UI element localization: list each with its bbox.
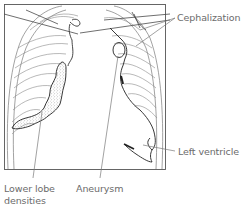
label-aneurysm: Aneurysm [76, 183, 123, 195]
label-lower-lobe-line2: densities [4, 195, 46, 207]
label-cephalization: Cephalization [177, 12, 240, 24]
cephalization-lines [4, 10, 170, 34]
label-lower-lobe-line1: Lower lobe [4, 183, 55, 195]
leader-cephalization-1 [140, 18, 175, 30]
label-left-ventricle: Left ventricle [178, 146, 239, 158]
left-ventricle-outline [122, 86, 155, 162]
mediastinum-right-border [68, 19, 80, 66]
lower-lobe-densities [12, 62, 66, 129]
chest-wall [7, 6, 162, 169]
leader-left-ventricle [143, 145, 175, 151]
aneurysm-bulge [110, 28, 127, 86]
leader-aneurysm [100, 56, 118, 178]
chest-xray-diagram [0, 0, 242, 212]
left-lung-ribs [104, 18, 157, 119]
